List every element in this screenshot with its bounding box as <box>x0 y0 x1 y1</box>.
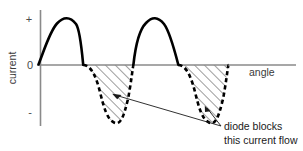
annotation-line-2: this current flow <box>224 134 298 146</box>
y-tick-zero: 0 <box>27 59 33 71</box>
wave-positive-cycle-2 <box>133 18 178 65</box>
wave-positive-cycle-1 <box>39 18 84 64</box>
y-tick-plus: + <box>26 13 32 25</box>
x-axis-label: angle <box>249 66 275 78</box>
waveform-diagram-svg: + 0 - current angle diode blocks this cu… <box>0 0 303 151</box>
rectifier-waveform-figure: + 0 - current angle diode blocks this cu… <box>0 0 303 151</box>
y-tick-minus: - <box>28 106 32 118</box>
y-axis-label: current <box>6 52 18 85</box>
annotation-line-1: diode blocks <box>224 120 282 132</box>
